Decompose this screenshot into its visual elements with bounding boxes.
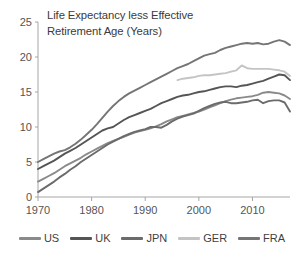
legend-swatch-jpn xyxy=(121,237,143,240)
y-tick-label: 0 xyxy=(26,191,32,203)
series-line-us xyxy=(38,92,290,182)
legend-label-us: US xyxy=(44,233,59,244)
legend-item-us[interactable]: US xyxy=(19,233,59,244)
y-axis-tick-labels: 0510152025 xyxy=(20,16,32,203)
legend-label-fra: FRA xyxy=(263,233,285,244)
x-tick-label: 2000 xyxy=(187,204,211,216)
legend-label-jpn: JPN xyxy=(146,233,167,244)
y-tick-label: 15 xyxy=(20,86,32,98)
series-line-jpn xyxy=(38,100,290,192)
y-tick-label: 20 xyxy=(20,51,32,63)
chart-legend: USUKJPNGERFRA xyxy=(0,228,304,248)
x-tick-label: 1990 xyxy=(133,204,157,216)
legend-item-ger[interactable]: GER xyxy=(178,233,227,244)
legend-swatch-fra xyxy=(238,237,260,240)
legend-swatch-us xyxy=(19,237,41,240)
chart-series-group xyxy=(38,40,290,192)
chart-container: Life Expectancy less Effective Retiremen… xyxy=(0,0,304,254)
x-axis-tick-labels: 19701980199020002010 xyxy=(26,204,265,216)
legend-label-uk: UK xyxy=(95,233,110,244)
y-tick-label: 10 xyxy=(20,121,32,133)
x-tick-label: 1980 xyxy=(79,204,103,216)
chart-axes xyxy=(35,22,290,201)
y-tick-label: 25 xyxy=(20,16,32,28)
legend-swatch-uk xyxy=(70,237,92,240)
x-tick-label: 2010 xyxy=(240,204,264,216)
chart-plot-area: 0510152025 19701980199020002010 xyxy=(0,0,304,254)
x-tick-label: 1970 xyxy=(26,204,50,216)
legend-item-jpn[interactable]: JPN xyxy=(121,233,167,244)
legend-swatch-ger xyxy=(178,237,200,240)
legend-label-ger: GER xyxy=(203,233,227,244)
y-tick-label: 5 xyxy=(26,156,32,168)
legend-item-fra[interactable]: FRA xyxy=(238,233,285,244)
legend-item-uk[interactable]: UK xyxy=(70,233,110,244)
